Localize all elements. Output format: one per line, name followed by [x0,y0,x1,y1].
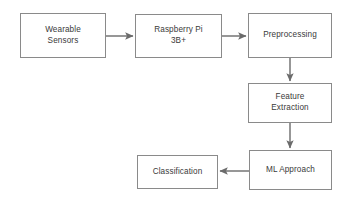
node-preprocessing[interactable]: Preprocessing [248,13,332,58]
node-label-raspberry-pi-3b-plus: Raspberry Pi 3B+ [152,25,205,47]
node-label-classification: Classification [151,167,205,178]
node-raspberry-pi-3b-plus[interactable]: Raspberry Pi 3B+ [135,14,222,58]
node-ml-approach[interactable]: ML Approach [249,150,332,190]
node-label-wearable-sensors: Wearable Sensors [43,25,83,47]
flowchart-diagram: Wearable Sensors Raspberry Pi 3B+ Prepro… [0,0,352,200]
node-classification[interactable]: Classification [137,155,218,189]
node-feature-extraction[interactable]: Feature Extraction [248,83,332,123]
node-label-preprocessing: Preprocessing [261,30,319,41]
node-wearable-sensors[interactable]: Wearable Sensors [20,13,106,58]
node-label-feature-extraction: Feature Extraction [269,92,310,114]
node-label-ml-approach: ML Approach [264,165,317,176]
